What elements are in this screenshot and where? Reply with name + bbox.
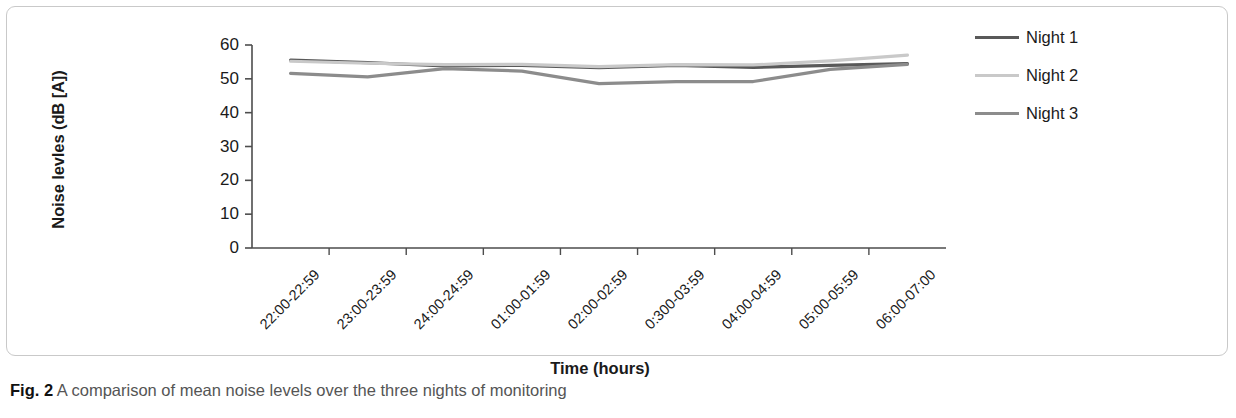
- figure-caption-label: Fig. 2: [10, 381, 53, 399]
- legend-label: Night 3: [1026, 105, 1078, 122]
- legend-entry[interactable]: Night 2: [975, 56, 1175, 94]
- legend-line-swatch-icon: [975, 74, 1019, 77]
- legend-label: Night 1: [1026, 29, 1078, 46]
- legend-label: Night 2: [1026, 67, 1078, 84]
- figure-caption: Fig. 2 A comparison of mean noise levels…: [10, 380, 1220, 401]
- legend-line-swatch-icon: [975, 36, 1019, 39]
- chart-legend: Night 1Night 2Night 3: [975, 18, 1175, 132]
- x-axis-title: Time (hours): [470, 359, 730, 378]
- chart-area: Noise levles (dB [A]) 6050403020100 22:0…: [0, 0, 1236, 356]
- legend-line-swatch-icon: [975, 112, 1019, 115]
- series-lines: [291, 55, 908, 83]
- figure-caption-text: A comparison of mean noise levels over t…: [57, 381, 567, 399]
- y-tick-marks: [245, 45, 252, 248]
- legend-entry[interactable]: Night 1: [975, 18, 1175, 56]
- x-tick-marks: [329, 248, 869, 255]
- legend-entry[interactable]: Night 3: [975, 94, 1175, 132]
